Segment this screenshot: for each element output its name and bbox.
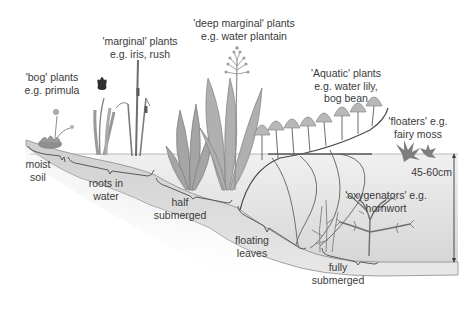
floating-leaves-line2: leaves [230,247,274,260]
deep-marginal-plants-label: 'deep marginal' plants e.g. water planta… [192,17,296,42]
aquatic-plants-example: e.g. water lily, [306,80,386,93]
half-submerged-label: half submerged [152,196,208,221]
bog-plants-label: 'bog' plants e.g. primula [24,71,80,96]
oxygenators-example: hornwort [340,202,432,215]
roots-in-water-line2: water [84,190,128,203]
bog-plants-example: e.g. primula [24,84,80,97]
aquatic-plants-title: 'Aquatic' plants [306,67,386,80]
marginal-plants-example: e.g. iris, rush [98,48,182,61]
floating-leaves-label: floating leaves [230,234,274,259]
marginal-plants-label: 'marginal' plants e.g. iris, rush [98,35,182,60]
rush-plant-icon [116,60,150,156]
fully-submerged-line2: submerged [310,274,366,287]
marginal-plants-title: 'marginal' plants [98,35,182,48]
aquatic-plants-label: 'Aquatic' plants e.g. water lily, bog be… [306,67,386,105]
fully-submerged-label: fully submerged [310,261,366,286]
primula-plant-icon [38,109,74,149]
moist-soil-line1: moist [22,158,54,171]
moist-soil-label: moist soil [22,158,54,183]
deep-marginal-plants-title: 'deep marginal' plants [192,17,296,30]
pond-diagram: 'bog' plants e.g. primula 'marginal' pla… [0,0,476,309]
aquatic-plants-example-2: bog bean [306,92,386,105]
roots-in-water-line1: roots in [84,177,128,190]
floaters-example: fairy moss [380,128,456,141]
roots-in-water-label: roots in water [84,177,128,202]
deep-marginal-plants-example: e.g. water plantain [192,30,296,43]
iris-plant-icon [95,77,114,155]
fully-submerged-line1: fully [310,261,366,274]
bog-plants-title: 'bog' plants [24,71,80,84]
oxygenators-title: 'oxygenators' e.g. [340,189,432,202]
floaters-title: 'floaters' e.g. [380,115,456,128]
pond-cross-section-illustration [0,0,476,309]
oxygenators-label: 'oxygenators' e.g. hornwort [340,189,432,214]
half-submerged-line1: half [152,196,208,209]
depth-label: 45-60cm [406,166,452,179]
moist-soil-line2: soil [22,171,54,184]
floaters-label: 'floaters' e.g. fairy moss [380,115,456,140]
half-submerged-line2: submerged [152,209,208,222]
floating-leaves-line1: floating [230,234,274,247]
